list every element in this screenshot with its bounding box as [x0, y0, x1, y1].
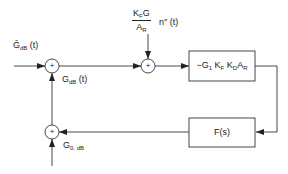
sum3-plus-sign: + — [45, 128, 59, 136]
forward-block-label: −G1 KF KDAR — [189, 61, 255, 71]
output-label: GdB (t) — [62, 75, 87, 85]
noise-gain-fraction: KFG AR — [132, 9, 151, 33]
sum2-plus-sign: + — [141, 62, 155, 70]
noise-signal-label: n″ (t) — [159, 18, 178, 27]
sum1-plus-sign: + — [45, 62, 59, 70]
feedback-block-label: F(s) — [189, 128, 255, 137]
offset-label: G0, dB — [63, 141, 84, 151]
input-label: ĜdB (t) — [13, 41, 38, 51]
